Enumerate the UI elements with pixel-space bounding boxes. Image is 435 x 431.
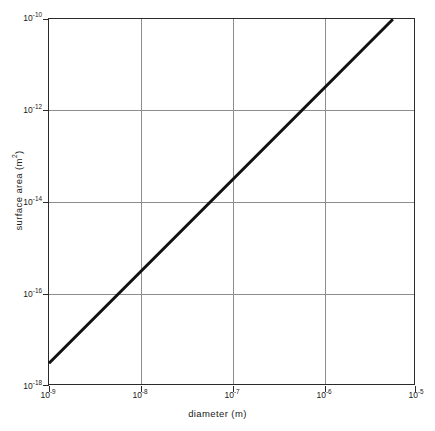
data-series-surface-area xyxy=(49,19,416,386)
y-axis-title-close: ) xyxy=(13,150,24,154)
x-tick-label-1e-9: 10-9 xyxy=(28,390,68,400)
x-tick-mark-1e-7 xyxy=(233,386,234,392)
x-tick-mark-1e-5 xyxy=(415,386,416,392)
y-tick-label-1e-12: 10-12 xyxy=(2,105,42,115)
y-tick-label-1e-16: 10-16 xyxy=(2,289,42,299)
x-tick-mark-1e-8 xyxy=(141,386,142,392)
plot-area xyxy=(48,18,415,385)
x-axis-title: diameter (m) xyxy=(0,408,435,419)
y-axis-title-text: surface area (m xyxy=(13,158,24,231)
y-tick-exponent: -16 xyxy=(33,287,42,294)
y-tick-mantissa: 10 xyxy=(23,105,32,115)
x-tick-label-1e-8: 10-8 xyxy=(120,390,160,400)
x-tick-exponent: -9 xyxy=(50,388,56,395)
x-tick-exponent: -7 xyxy=(234,388,240,395)
x-tick-mark-1e-6 xyxy=(325,386,326,392)
x-tick-exponent: -8 xyxy=(142,388,148,395)
series-line xyxy=(49,19,393,363)
y-axis-title: surface area (m2) xyxy=(13,121,24,261)
x-tick-label-1e-6: 10-6 xyxy=(304,390,344,400)
y-tick-mantissa: 10 xyxy=(23,13,32,23)
y-tick-exponent: -18 xyxy=(33,379,42,386)
x-tick-exponent: -6 xyxy=(326,388,332,395)
y-tick-mantissa: 10 xyxy=(23,289,32,299)
y-tick-exponent: -12 xyxy=(33,103,42,110)
y-tick-exponent: -14 xyxy=(33,195,42,202)
x-tick-exponent: -5 xyxy=(418,388,424,395)
y-tick-label-1e-10: 10-10 xyxy=(2,13,42,23)
y-tick-mantissa: 10 xyxy=(23,197,32,207)
x-tick-label-1e-7: 10-7 xyxy=(212,390,252,400)
figure-log-log-surface-area-vs-diameter: 10-10 10-12 10-14 10-16 10-18 10-9 10-8 … xyxy=(0,0,435,431)
y-tick-exponent: -10 xyxy=(33,11,42,18)
x-tick-mark-1e-9 xyxy=(49,386,50,392)
x-tick-mantissa: 10 xyxy=(408,390,417,400)
y-axis-title-exponent: 2 xyxy=(11,154,18,158)
